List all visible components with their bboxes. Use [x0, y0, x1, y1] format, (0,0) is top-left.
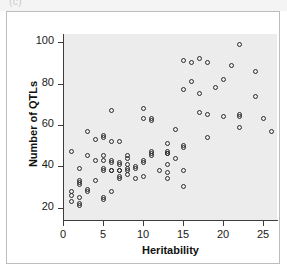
scatter-point [253, 69, 258, 74]
scatter-point [165, 141, 170, 146]
scatter-point [77, 166, 82, 171]
scatter-point [69, 149, 74, 154]
x-axis-line [63, 220, 278, 221]
x-tick-label: 20 [211, 228, 235, 240]
scatter-point [133, 166, 138, 171]
scatter-point [165, 176, 170, 181]
scatter-point [221, 114, 226, 119]
scatter-point [109, 108, 114, 113]
scatter-point [213, 85, 218, 90]
scatter-point [197, 110, 202, 115]
scatter-point [237, 42, 242, 47]
scatter-point [205, 112, 210, 117]
scatter-point [117, 168, 122, 173]
scatter-point [229, 63, 234, 68]
y-tick-mark [58, 42, 63, 43]
scatter-point [109, 139, 114, 144]
scatter-point [149, 118, 154, 123]
scatter-point [173, 156, 178, 161]
x-tick-label: 10 [131, 228, 155, 240]
x-tick-mark [103, 221, 104, 226]
figure-frame: 0510152025 20406080100 Heritability Numb… [6, 11, 280, 264]
scatter-point [157, 168, 162, 173]
scan-top-strip: (c) [0, 0, 287, 11]
scatter-point [181, 145, 186, 150]
scan-caption-text: (c) [9, 0, 22, 7]
plot-panel [64, 34, 277, 220]
scatter-point [117, 162, 122, 167]
x-tick-label: 25 [251, 228, 275, 240]
scatter-point [93, 158, 98, 163]
scatter-point [93, 178, 98, 183]
scatter-point [125, 172, 130, 177]
scatter-point [141, 106, 146, 111]
scatter-point [101, 168, 106, 173]
scatter-point [189, 79, 194, 84]
scatter-point [181, 58, 186, 63]
x-tick-mark [263, 221, 264, 226]
x-tick-mark [63, 221, 64, 226]
scatter-point [101, 197, 106, 202]
y-tick-mark [58, 208, 63, 209]
scatter-point [221, 77, 226, 82]
scatter-point [165, 151, 170, 156]
scatter-point [269, 129, 274, 134]
x-tick-mark [143, 221, 144, 226]
scatter-point [109, 168, 114, 173]
scatter-point [237, 125, 242, 130]
scatter-point [237, 114, 242, 119]
scatter-point [117, 176, 122, 181]
scatter-point [77, 182, 82, 187]
scatter-point [205, 135, 210, 140]
scatter-point [93, 137, 98, 142]
scatter-point [77, 203, 82, 208]
scatter-point [85, 189, 90, 194]
y-axis-title: Number of QTLs [27, 49, 39, 199]
scatter-point [101, 135, 106, 140]
scatter-point [133, 176, 138, 181]
scatter-point [181, 168, 186, 173]
scatter-point [141, 174, 146, 179]
y-tick-mark [58, 125, 63, 126]
scatter-point [197, 56, 202, 61]
scatter-point [117, 139, 122, 144]
scatter-point [253, 94, 258, 99]
scatter-point [69, 193, 74, 198]
scatter-point [109, 189, 114, 194]
scatter-point [141, 160, 146, 165]
scatter-point [77, 195, 82, 200]
x-axis-title: Heritability [63, 244, 278, 256]
scatter-point [69, 199, 74, 204]
y-tick-label: 100 [18, 34, 54, 46]
scatter-point [165, 170, 170, 175]
x-tick-mark [183, 221, 184, 226]
scatter-point [261, 116, 266, 121]
x-tick-label: 5 [91, 228, 115, 240]
x-tick-label: 15 [171, 228, 195, 240]
scatter-point [125, 156, 130, 161]
scatter-point [85, 129, 90, 134]
scatter-point [181, 87, 186, 92]
x-tick-label: 0 [51, 228, 75, 240]
scatter-point [141, 116, 146, 121]
y-tick-mark [58, 166, 63, 167]
y-axis-line [63, 34, 64, 221]
y-tick-mark [58, 84, 63, 85]
y-tick-label: 20 [18, 200, 54, 212]
scatter-point [165, 162, 170, 167]
scatter-point [101, 158, 106, 163]
x-tick-mark [223, 221, 224, 226]
scatter-point [173, 127, 178, 132]
scatter-point [109, 160, 114, 165]
